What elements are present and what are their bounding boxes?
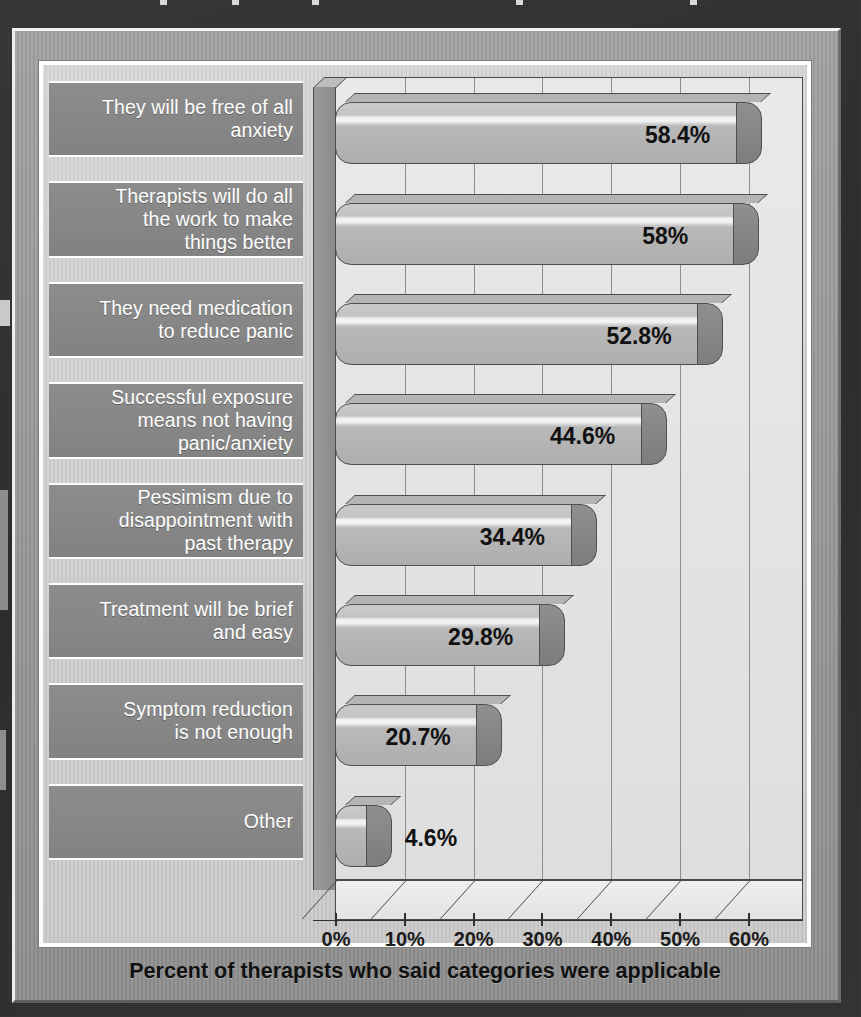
category-label-row: Pessimism due to disappointment with pas… [49, 483, 303, 559]
bar-top-face [345, 695, 511, 704]
x-axis-tick [748, 913, 750, 926]
bar-value-label: 52.8% [606, 322, 671, 349]
edge-artifact [0, 300, 10, 326]
bar-body [335, 805, 367, 867]
bar-top-face [345, 93, 771, 102]
bar-end-cap [571, 504, 597, 566]
bar-value-label: 44.6% [550, 423, 615, 450]
category-label-text: Pessimism due to disappointment with pas… [119, 486, 293, 555]
chart-plaque-frame: They will be free of all anxietyTherapis… [12, 28, 841, 1003]
floor-diagonal [439, 881, 474, 919]
bar-value-label: 4.6% [405, 824, 457, 851]
bar-end-cap [476, 704, 502, 766]
bar-end-cap [733, 203, 759, 265]
category-label-row: Other [49, 784, 303, 860]
category-label-row: They will be free of all anxiety [49, 81, 303, 157]
category-label-row: Treatment will be brief and easy [49, 583, 303, 659]
bar [335, 805, 393, 867]
category-label-text: Successful exposure means not having pan… [111, 386, 293, 455]
bar [335, 504, 598, 566]
bar-top-face [345, 194, 768, 203]
category-label-text: Symptom reduction is not enough [123, 698, 293, 744]
floor-diagonal [371, 881, 406, 919]
bar-end-cap [736, 102, 762, 164]
edge-artifact [0, 490, 8, 610]
category-label-row: Symptom reduction is not enough [49, 683, 303, 759]
bar-value-label: 34.4% [480, 523, 545, 550]
bar-value-label: 58% [642, 222, 688, 249]
bar-end-cap [366, 805, 392, 867]
bar-value-label: 29.8% [448, 624, 513, 651]
category-label-row: Therapists will do all the work to make … [49, 181, 303, 257]
bar-end-cap [539, 604, 565, 666]
plot-area: 0%10%20%30%40%50%60%58.4%58%52.8%44.6%34… [313, 77, 803, 937]
bar-top-face [345, 796, 401, 805]
x-axis-tick-label: 20% [454, 928, 494, 951]
category-label-text: They will be free of all anxiety [102, 96, 293, 142]
x-axis-tick [679, 913, 681, 926]
x-axis-tick-label: 0% [322, 928, 351, 951]
bar [335, 403, 668, 465]
x-axis-tick-label: 10% [385, 928, 425, 951]
bar-value-label: 58.4% [645, 122, 710, 149]
category-label-column: They will be free of all anxietyTherapis… [43, 65, 309, 943]
floor-diagonal [577, 881, 612, 919]
category-label-text: They need medication to reduce panic [99, 297, 293, 343]
category-label-text: Treatment will be brief and easy [100, 598, 293, 644]
axis-wall [313, 87, 336, 890]
x-axis-tick [610, 913, 612, 926]
x-axis-tick [404, 913, 406, 926]
x-axis-line [313, 920, 803, 921]
floor-diagonal [508, 881, 543, 919]
bar-top-face [345, 394, 676, 403]
edge-artifact [0, 730, 6, 790]
floor-diagonal [646, 881, 681, 919]
floor-diagonal [715, 881, 750, 919]
chart-panel: They will be free of all anxietyTherapis… [39, 61, 811, 947]
x-axis-tick-label: 30% [522, 928, 562, 951]
x-axis-tick-label: 60% [729, 928, 769, 951]
category-label-text: Other [244, 810, 293, 833]
bar [335, 203, 760, 265]
category-label-row: Successful exposure means not having pan… [49, 382, 303, 458]
x-axis-tick [473, 913, 475, 926]
category-label-text: Therapists will do all the work to make … [115, 185, 293, 254]
bar-value-label: 20.7% [385, 724, 450, 751]
x-axis-tick [541, 913, 543, 926]
x-axis-tick [335, 913, 337, 926]
chart-caption: Percent of therapists who said categorie… [39, 959, 811, 984]
category-label-row: They need medication to reduce panic [49, 282, 303, 358]
bar-end-cap [697, 303, 723, 365]
x-axis-tick-label: 50% [660, 928, 700, 951]
x-axis-tick-label: 40% [591, 928, 631, 951]
bar-top-face [345, 595, 574, 604]
bar-top-face [345, 495, 606, 504]
bar-top-face [345, 294, 732, 303]
bar-end-cap [641, 403, 667, 465]
cropped-title-fragments [0, 0, 861, 10]
